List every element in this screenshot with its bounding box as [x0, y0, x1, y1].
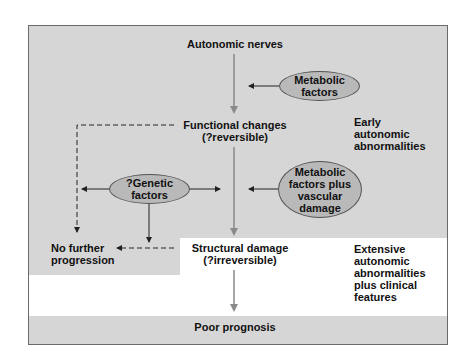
mv-line4: damage: [289, 202, 351, 214]
genetic-line2: factors: [126, 189, 173, 201]
arrows-layer: [0, 0, 470, 364]
early-line2: autonomic: [354, 128, 426, 140]
node-no-further-progression: No further progression: [51, 242, 115, 266]
mv-line2: factors plus: [289, 178, 351, 190]
metabolic-line1: Metabolic: [294, 74, 345, 86]
early-line1: Early: [354, 116, 426, 128]
node-poor-prognosis: Poor prognosis: [170, 321, 300, 333]
functional-subtitle: (?reversible): [170, 131, 300, 143]
oval-metabolic-factors: Metabolicfactors: [279, 71, 360, 101]
oval-genetic-factors: ?Geneticfactors: [109, 174, 190, 204]
extensive-line4: plus clinical: [354, 279, 426, 291]
stage-early: Early autonomic abnormalities: [354, 116, 426, 152]
stage-extensive: Extensive autonomic abnormalities plus c…: [354, 243, 426, 303]
metabolic-line2: factors: [294, 86, 345, 98]
early-line3: abnormalities: [354, 140, 426, 152]
node-autonomic-nerves: Autonomic nerves: [170, 38, 300, 50]
functional-title: Functional changes: [170, 119, 300, 131]
mv-line1: Metabolic: [289, 166, 351, 178]
genetic-line1: ?Genetic: [126, 177, 173, 189]
structural-title: Structural damage: [170, 242, 310, 254]
oval-metabolic-vascular: Metabolic factors plus vascular damage: [278, 161, 362, 218]
no-further-line2: progression: [51, 254, 115, 266]
structural-subtitle: (?irreversible): [170, 254, 310, 266]
extensive-line3: abnormalities: [354, 267, 426, 279]
mv-line3: vascular: [289, 190, 351, 202]
extensive-line1: Extensive: [354, 243, 426, 255]
extensive-line5: features: [354, 291, 426, 303]
node-functional-changes: Functional changes (?reversible): [170, 119, 300, 143]
no-further-line1: No further: [51, 242, 115, 254]
extensive-line2: autonomic: [354, 255, 426, 267]
node-structural-damage: Structural damage (?irreversible): [170, 242, 310, 266]
